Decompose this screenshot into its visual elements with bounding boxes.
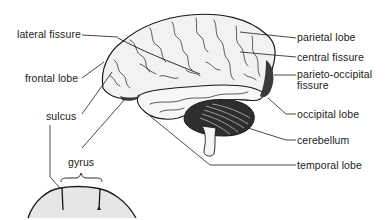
label-parietal-lobe: parietal lobe bbox=[297, 32, 356, 43]
brain-diagram: lateral fissure frontal lobe sulcus gyru… bbox=[0, 0, 387, 220]
label-temporal-lobe: temporal lobe bbox=[297, 160, 362, 171]
label-central-fissure: central fissure bbox=[297, 52, 364, 63]
gyrus-cross-section bbox=[28, 173, 136, 218]
label-gyrus: gyrus bbox=[68, 157, 94, 168]
label-frontal-lobe: frontal lobe bbox=[25, 73, 78, 84]
label-parieto-occipital-fissure-line2: fissure bbox=[297, 80, 329, 91]
cerebellum bbox=[184, 100, 254, 157]
label-sulcus: sulcus bbox=[46, 111, 76, 122]
cerebrum bbox=[102, 14, 275, 119]
label-occipital-lobe: occipital lobe bbox=[297, 109, 359, 120]
label-lateral-fissure: lateral fissure bbox=[17, 29, 81, 40]
label-cerebellum: cerebellum bbox=[297, 135, 349, 146]
